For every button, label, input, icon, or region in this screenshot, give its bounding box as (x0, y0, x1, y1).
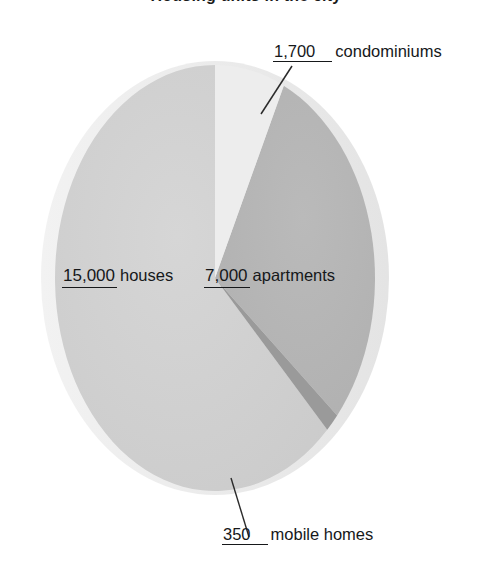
name-condominiums: condominiums (335, 42, 441, 60)
label-houses: 15,000houses (62, 266, 173, 288)
value-apartments: 7,000 (204, 267, 250, 288)
chart-page: Housing units in the city (0, 0, 492, 584)
pie-chart (0, 0, 492, 584)
name-mobile-homes: mobile homes (271, 525, 374, 543)
label-mobile-homes: 350mobile homes (222, 525, 373, 545)
label-apartments: 7,000apartments (204, 266, 335, 288)
name-houses: houses (120, 266, 173, 284)
value-houses: 15,000 (62, 267, 117, 288)
label-condominiums: 1,700condominiums (273, 42, 442, 62)
value-mobile-homes: 350 (222, 525, 268, 545)
name-apartments: apartments (253, 266, 336, 284)
pie-chart-svg (0, 0, 492, 584)
value-condominiums: 1,700 (273, 42, 332, 62)
